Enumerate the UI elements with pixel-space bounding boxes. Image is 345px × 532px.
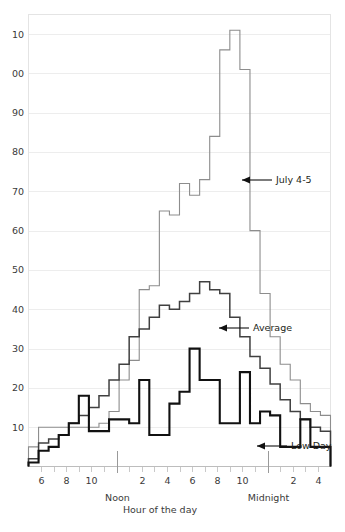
y-tick-label-20: 20	[12, 382, 24, 393]
step-line-chart: 1020304050607080900010 681024681024 Noon…	[0, 0, 345, 532]
x-tick-label-6: 6	[38, 475, 44, 486]
x-tick-label-10: 10	[85, 475, 97, 486]
x-tick-label-26: 2	[290, 475, 296, 486]
annotation-label: Average	[253, 322, 292, 333]
x-tick-label-14: 2	[139, 475, 145, 486]
chart-background	[0, 0, 345, 532]
chart-container: 1020304050607080900010 681024681024 Noon…	[0, 0, 345, 532]
x-tick-label-28: 4	[315, 475, 321, 486]
y-tick-label-30: 30	[12, 343, 24, 354]
y-tick-label-50: 50	[12, 264, 24, 275]
y-tick-label-110: 10	[12, 29, 24, 40]
x-tick-label-22: 10	[236, 475, 248, 486]
y-tick-label-10: 10	[12, 422, 24, 433]
y-tick-label-90: 90	[12, 107, 24, 118]
y-tick-label-80: 80	[12, 146, 24, 157]
x-axis-title: Hour of the day	[123, 504, 198, 515]
y-tick-label-40: 40	[12, 304, 24, 315]
annotation-label: July 4-5	[275, 174, 312, 185]
x-major-label-midnight: Midnight	[248, 492, 290, 503]
y-tick-label-60: 60	[12, 225, 24, 236]
y-tick-label-100: 00	[12, 68, 24, 79]
annotation-label: Low Day	[291, 440, 332, 451]
x-tick-label-18: 6	[189, 475, 195, 486]
x-tick-label-8: 8	[63, 475, 69, 486]
x-tick-label-16: 4	[164, 475, 170, 486]
y-tick-label-70: 70	[12, 186, 24, 197]
x-tick-label-20: 8	[214, 475, 220, 486]
x-major-label-noon: Noon	[105, 492, 130, 503]
